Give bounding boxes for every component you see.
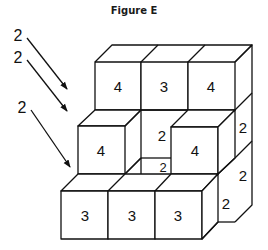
middle-right-cube-label: 4 bbox=[191, 142, 199, 159]
bottom-cube-3-label: 3 bbox=[174, 207, 182, 224]
arrows bbox=[27, 38, 70, 167]
arrow-2-label: 2 bbox=[14, 49, 23, 66]
recess-back-label: 2 bbox=[158, 127, 166, 144]
cube-drawing: 4 3 4 4 2 2 4 2 3 3 3 2 2 2 2 2 bbox=[0, 0, 268, 250]
arrow-1-label: 2 bbox=[14, 27, 23, 44]
right-side-mid-label: 2 bbox=[239, 167, 247, 184]
top-cube-3-label: 4 bbox=[207, 78, 215, 95]
bottom-cube-1-label: 3 bbox=[81, 207, 89, 224]
middle-left-cube-label: 4 bbox=[97, 142, 105, 159]
top-cube-2-label: 3 bbox=[160, 78, 168, 95]
arrow-3-label: 2 bbox=[18, 99, 27, 116]
right-side-top-label: 2 bbox=[239, 119, 247, 136]
right-side-lower-label: 2 bbox=[222, 195, 230, 212]
top-cube-1-label: 4 bbox=[114, 78, 122, 95]
recess-floor-label: 2 bbox=[159, 160, 166, 175]
figure-e-diagram: Figure E bbox=[0, 0, 268, 250]
bottom-cube-2-label: 3 bbox=[128, 207, 136, 224]
